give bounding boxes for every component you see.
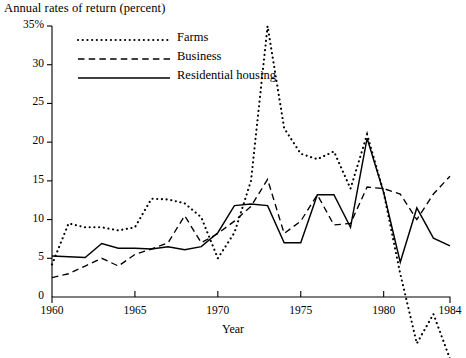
legend-item-business: Business [76,47,276,66]
x-tick-label-1975: 1975 [271,304,331,316]
dotted-line-key [76,32,172,44]
y-tick-label-35: 35% [0,18,44,30]
y-tick-label-25: 25 [0,95,44,107]
legend-item-farms: Farms [76,28,276,47]
x-axis-title: Year [0,322,466,337]
y-tick-label-0: 0 [0,289,44,301]
x-tick-label-1970: 1970 [188,304,248,316]
x-tick-label-1960: 1960 [22,304,82,316]
solid-line-key [76,70,172,82]
series-line-business [52,176,450,277]
x-tick-label-1984: 1984 [420,304,466,316]
dashed-line-key [76,51,172,63]
y-tick-label-10: 10 [0,212,44,224]
series-line-residential-housing [52,138,450,262]
legend-label: Farms [172,30,208,45]
y-tick-label-30: 30 [0,57,44,69]
chart-legend: FarmsBusinessResidential housing [76,28,276,85]
x-tick-label-1980: 1980 [354,304,414,316]
y-tick-label-20: 20 [0,134,44,146]
legend-item-residential-housing: Residential housing [76,66,276,85]
y-tick-label-15: 15 [0,173,44,185]
legend-label: Residential housing [172,68,276,83]
y-tick-label-5: 5 [0,250,44,262]
x-axis-spine [52,297,450,303]
legend-label: Business [172,49,221,64]
chart-figure: Annual rates of return (percent) 0510152… [0,0,466,358]
x-tick-label-1965: 1965 [105,304,165,316]
